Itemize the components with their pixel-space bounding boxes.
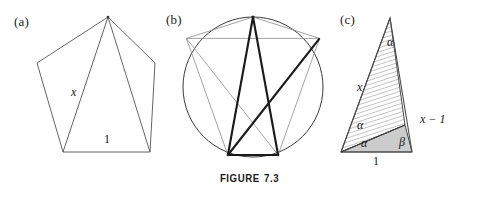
vertex-dot-top: [251, 15, 254, 18]
vertex-dot-lower-left: [227, 154, 230, 157]
panel-b-pentagram: (b): [160, 0, 340, 199]
diagonal-apex-to-base-left: [63, 17, 108, 152]
triangle-side-label-x: x: [357, 81, 362, 93]
triangle-angle-label-alpha-apex: α: [387, 36, 393, 48]
apex-vertex-dot: [107, 16, 110, 19]
bold-chord-top-to-lower-left: [228, 17, 253, 155]
pentagon-diagram-svg: [0, 0, 170, 199]
caption-number: 7.3: [264, 172, 279, 184]
pentagram-diagram-svg: [160, 0, 340, 199]
bold-chord-top-to-lower-right: [253, 17, 278, 155]
figure-caption: FIGURE7.3: [30, 172, 469, 184]
triangle-side-label-x-minus-1: x − 1: [420, 113, 445, 125]
triangle-angle-label-alpha-inner: α: [357, 119, 363, 131]
pentagon-base-label-1: 1: [104, 133, 110, 145]
panel-c-triangle: (c) α x α α 1 β x − 1: [330, 0, 499, 199]
caption-word: FIGURE: [220, 172, 260, 184]
triangle-base-label-1: 1: [373, 155, 379, 167]
pentagon-outline: [37, 17, 155, 152]
chord-left-to-lower-right: [186, 38, 278, 155]
triangle-angle-label-beta: β: [399, 136, 405, 148]
triangle-angle-label-alpha-base: α: [361, 137, 367, 149]
bold-chord-lower-left-to-right: [228, 38, 320, 155]
panel-a-pentagon: (a) x 1: [0, 0, 170, 199]
figure-container: (a) x 1 (b): [0, 0, 499, 199]
triangle-diagram-svg: [330, 0, 499, 199]
pentagon-diagonal-label-x: x: [71, 86, 76, 98]
inscribed-pentagon-outline: [186, 17, 319, 155]
vertex-dot-lower-right: [277, 154, 280, 157]
